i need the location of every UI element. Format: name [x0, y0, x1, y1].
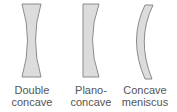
- double-concave-label: Double concave: [10, 84, 54, 108]
- plano-concave-label: Plano- concave: [68, 84, 114, 108]
- label-line: Double: [10, 84, 54, 96]
- concave-meniscus-lens: [137, 5, 154, 79]
- double-concave-lens: [22, 4, 41, 77]
- label-line: Plano-: [68, 84, 114, 96]
- label-line: Concave: [119, 84, 171, 96]
- label-line: concave: [10, 96, 54, 108]
- concave-meniscus-label: Concave meniscus: [119, 84, 171, 108]
- plano-concave-lens: [83, 4, 99, 77]
- label-line: meniscus: [119, 96, 171, 108]
- label-line: concave: [68, 96, 114, 108]
